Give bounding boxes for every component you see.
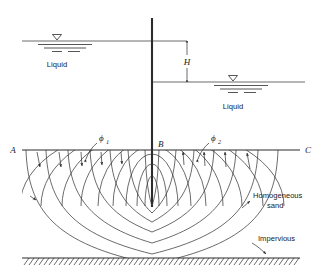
phi1-label: ϕ — [99, 133, 104, 143]
upstream-liquid-label: Liquid — [47, 60, 67, 69]
impervious-label: Impervious — [258, 234, 295, 243]
downstream-liquid-label: Liquid — [223, 102, 243, 111]
head-label: H — [183, 57, 191, 67]
phi1-subscript: 1 — [106, 138, 109, 145]
seepage-flow-net-figure: Liquid Liquid H A C B — [0, 0, 327, 276]
point-b-label: B — [158, 139, 164, 149]
phi2-label: ϕ — [211, 133, 216, 143]
point-a-label: A — [9, 145, 16, 155]
soil-label-line2: sand — [267, 201, 283, 210]
phi2-subscript: 2 — [218, 138, 221, 145]
soil-label-line1: Homogeneous — [253, 191, 303, 200]
point-c-label: C — [305, 145, 312, 155]
